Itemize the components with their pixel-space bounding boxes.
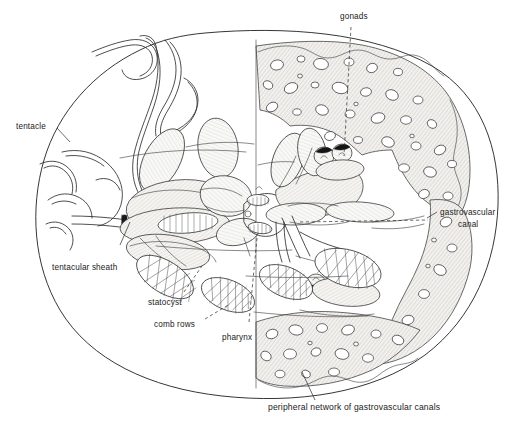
label-pharynx: pharynx <box>222 333 252 342</box>
label-tentacular-sheath: tentacular sheath <box>52 263 118 272</box>
ctenophore-anatomy-figure: tentacle tentacular sheath statocyst com… <box>0 0 520 424</box>
label-comb-rows: comb rows <box>154 320 195 329</box>
label-statocyst: statocyst <box>148 298 182 307</box>
label-tentacle: tentacle <box>16 122 46 131</box>
label-gastrovascular-canal-line1: gastrovascular <box>440 208 495 217</box>
label-gonads: gonads <box>340 12 368 21</box>
peripheral-network-lower <box>256 311 420 388</box>
label-gastrovascular-canal-line2: canal <box>458 220 478 229</box>
label-peripheral-network: peripheral network of gastrovascular can… <box>268 402 440 412</box>
